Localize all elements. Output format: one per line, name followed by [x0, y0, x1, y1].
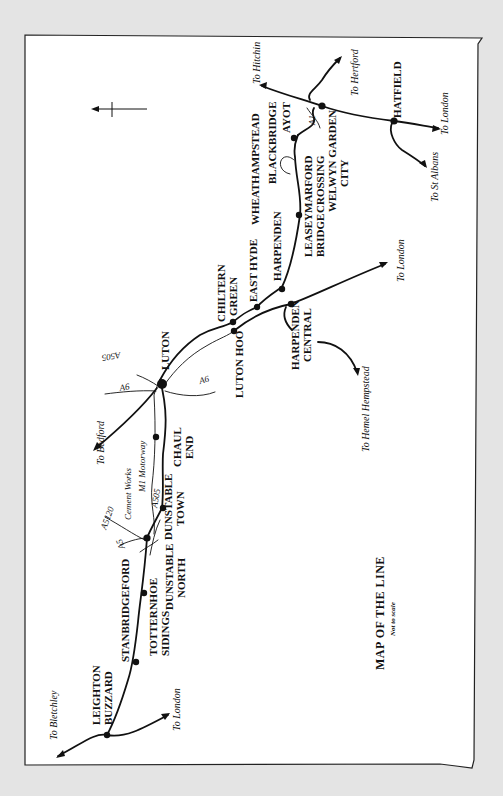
dest-bletchley: To Bletchley: [48, 690, 59, 740]
label-harpenden-central: HARPENDEN CENTRAL: [289, 298, 313, 370]
label-harpenden: HARPENDEN: [271, 211, 283, 281]
map-title: MAP OF THE LINE: [373, 556, 387, 670]
dest-hitchin: To Hitchin: [251, 42, 262, 84]
station-dot-leighton-buzzard: [104, 732, 110, 738]
label-stanbridgeford: STANBRIDGEFORD: [119, 559, 131, 662]
label-a6-west: A6: [118, 381, 131, 393]
label-east-hyde: EAST HYDE: [247, 239, 259, 302]
station-dot-chaul-end: [153, 434, 159, 440]
station-dot-harpenden: [279, 286, 285, 292]
station-dot-luton: [157, 379, 167, 389]
dest-st-albans: To St Albans: [429, 152, 440, 202]
label-leighton-buzzard: LEIGHTON BUZZARD: [90, 663, 114, 725]
dest-london-leighton: To London: [171, 688, 182, 731]
label-luton: LUTON: [159, 331, 171, 370]
station-dot-dunstable-north: [143, 534, 150, 541]
dest-london-hatfield: To London: [439, 92, 450, 135]
label-wheathampstead: WHEATHAMPSTEAD: [249, 113, 261, 225]
label-ayot: AYOT: [280, 102, 292, 133]
label-luton-hoo: LUTON HOO: [233, 330, 245, 398]
label-a1: A1: [307, 115, 317, 126]
label-blackbridge: BLACKBRIDGE: [266, 101, 278, 184]
dest-london-harpenden: To London: [395, 239, 406, 282]
station-dot-ayot: [291, 135, 297, 141]
dest-hemel-hempstead: To Hemel Hempstead: [360, 365, 371, 452]
station-dot-chiltern-green: [230, 319, 236, 325]
station-dot-east-hyde: [254, 304, 260, 310]
label-m1-motorway: M1 Motorway: [137, 441, 147, 493]
station-dot-stanbridgeford: [133, 659, 139, 665]
label-leasey-bridge: LEASEY BRIDGE: [302, 211, 326, 257]
map-subtitle: Not to scale: [389, 602, 397, 637]
label-marford-crossing: MARFORD CROSSING: [302, 153, 326, 213]
station-dot-welwyn-garden-city: [318, 102, 325, 109]
label-cement-works: Cement Works: [123, 468, 133, 520]
dest-bedford: To Bedford: [95, 420, 106, 465]
map-of-the-line: LEIGHTON BUZZARD STANBRIDGEFORD TOTTERNH…: [0, 0, 503, 796]
label-hatfield: HATFIELD: [391, 61, 403, 118]
dest-hertford: To Hertford: [349, 48, 360, 96]
